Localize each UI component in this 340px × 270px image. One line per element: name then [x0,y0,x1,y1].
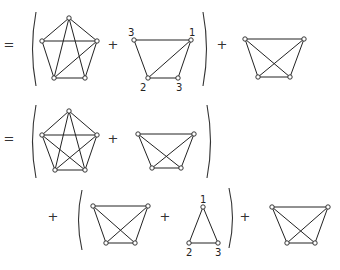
graph-vertex [132,38,136,42]
graph-vertex [192,132,196,136]
graph-vertex [270,205,274,209]
graph-vertex [136,132,140,136]
plus-sign: + [217,37,228,52]
graph-vertex [133,241,137,245]
plus-sign: + [48,209,59,224]
vertex-label: 2 [186,247,192,258]
graph-vertex [67,16,71,20]
graph-vertex [83,76,87,80]
graph-edge [272,207,287,243]
graph-vertex [52,76,56,80]
graph-edge [69,18,85,78]
graph-vertex [95,133,99,137]
triangle-graph-labeled: 123 [186,194,221,258]
graph-vertex [150,166,154,170]
vertex-label: 3 [128,27,134,38]
pentagon-complete-graph [40,109,99,172]
graph-edge [134,40,148,78]
graph-edge [69,111,97,135]
graph-edge [69,18,97,41]
graph-vertex [201,205,205,209]
plus-sign: + [108,131,119,146]
graph-edge [42,18,69,41]
graph-vertex [302,37,306,41]
left-parenthesis [33,12,37,86]
graph-vertex [83,168,87,172]
trapezoid-complete-graph [270,205,330,245]
graph-vertex [326,205,330,209]
trapezoid-complete-graph [136,132,196,170]
graph-vertex [146,204,150,208]
equals-sign: = [4,37,15,52]
vertex-label: 2 [140,82,146,93]
graph-vertex [216,241,220,245]
plus-sign: + [160,209,171,224]
diagram-canvas: =++3123=++++123 [0,0,340,270]
graph-vertex [187,241,191,245]
vertex-label: 1 [189,27,195,38]
graph-vertex [91,204,95,208]
graph-vertex [243,37,247,41]
graph-equation-diagram: =++3123=++++123 [0,0,340,270]
graph-vertex [313,241,317,245]
equation-row: =+ [4,105,211,178]
plus-sign: + [240,209,251,224]
vertex-label: 3 [176,82,182,93]
graph-vertex [189,38,193,42]
equation-row: =++3123 [4,12,307,93]
graph-vertex [67,109,71,113]
graph-vertex [40,39,44,43]
right-parenthesis [203,12,207,86]
graph-vertex [179,166,183,170]
trapezoid-complete-graph [91,204,150,245]
graph-edge [203,207,218,243]
graph-edge [42,41,54,78]
graph-vertex [146,76,150,80]
graph-vertex [95,39,99,43]
graph-edge [138,134,181,168]
right-parenthesis [207,105,211,178]
equation-row: +++123 [48,188,331,258]
graph-vertex [104,241,108,245]
vertex-label: 1 [200,194,206,205]
left-parenthesis [33,105,37,178]
equals-sign: = [4,131,15,146]
trapezoid-graph-labeled: 3123 [128,27,195,93]
graph-vertex [256,75,260,79]
trapezoid-complete-graph [243,37,306,79]
graph-vertex [176,76,180,80]
plus-sign: + [108,37,119,52]
vertex-label: 3 [215,247,221,258]
graph-edge [55,111,69,170]
graph-vertex [40,133,44,137]
graph-vertex [285,241,289,245]
graph-edge [189,207,203,243]
graph-vertex [53,168,57,172]
graph-edge [69,111,85,170]
graph-vertex [288,75,292,79]
pentagon-graph-9-edges [40,16,99,80]
left-parenthesis [79,190,83,250]
right-parenthesis [229,188,233,248]
graph-edge [54,18,69,78]
graph-edge [42,111,69,135]
